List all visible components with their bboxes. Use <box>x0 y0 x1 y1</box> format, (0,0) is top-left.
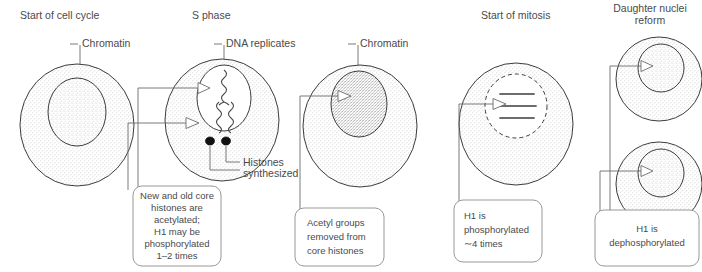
note-line: ∼4 times <box>464 238 503 249</box>
note-line: removed from <box>307 231 366 242</box>
note-line: New and old core <box>140 190 214 201</box>
note-acetyl-removed: Acetyl groups removed from core histones <box>295 208 384 266</box>
note-line: core histones <box>307 245 364 256</box>
note-h1-dephosphorylated: H1 is dephosphorylated <box>595 210 699 266</box>
panel-title-1: Start of cell cycle <box>20 9 100 21</box>
callout-dna-replicates: DNA replicates <box>226 37 295 49</box>
callout-chromatin-2: Chromatin <box>360 37 409 49</box>
note-s-phase: New and old core histones are acetylated… <box>133 186 221 266</box>
note-line: histones are <box>151 202 203 213</box>
panel-title-5-line2: reform <box>635 14 666 26</box>
callout-histones-line2: synthesized <box>243 167 299 179</box>
note-line: H1 is <box>464 210 486 221</box>
note-h1-phosphorylated: H1 is phosphorylated ∼4 times <box>454 200 542 262</box>
panel-title-4: Start of mitosis <box>481 9 550 21</box>
note-line: phosphorylated <box>145 238 210 249</box>
panel-title-2: S phase <box>192 9 231 21</box>
note-line: dephosphorylated <box>609 237 685 248</box>
nucleus-1 <box>48 78 106 146</box>
panel-title-5-line1: Daughter nuclei <box>613 2 687 14</box>
note-line: Acetyl groups <box>307 217 365 228</box>
panel-start-of-mitosis: Start of mitosis H1 is phosphorylated ∼4… <box>454 9 573 262</box>
panel-s-phase: S phase DNA replicates Histones synthesi… <box>128 9 299 266</box>
diagram-root: Start of cell cycle Chromatin S phase DN… <box>0 0 702 272</box>
callout-chromatin-1: Chromatin <box>82 37 131 49</box>
note-line: H1 may be <box>154 226 200 237</box>
nucleus-2 <box>197 65 251 131</box>
note-line: acetylated; <box>154 214 200 225</box>
note-line: phosphorylated <box>464 224 529 235</box>
note-line: H1 is <box>636 223 658 234</box>
panel-start-of-cell-cycle: Start of cell cycle Chromatin <box>20 9 134 186</box>
note-line: 1–2 times <box>156 250 197 261</box>
cell-cycle-diagram: Start of cell cycle Chromatin S phase DN… <box>0 0 702 272</box>
panel-post-s-phase: Chromatin Acetyl groups removed from cor… <box>295 37 417 266</box>
panel-daughter-nuclei-reform: Daughter nuclei reform H1 is dephosphory… <box>595 2 702 266</box>
nucleus-3 <box>331 71 387 137</box>
